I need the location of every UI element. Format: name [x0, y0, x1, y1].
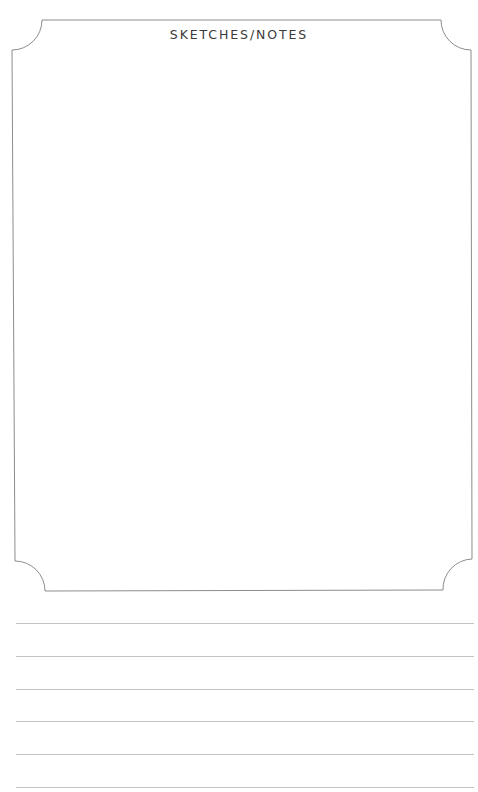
sketch-frame-border	[12, 20, 472, 591]
ruled-line	[16, 623, 474, 624]
ruled-line	[16, 787, 474, 788]
ruled-line	[16, 754, 474, 755]
page-title: SKETCHES/NOTES	[0, 27, 478, 42]
ruled-line	[16, 689, 474, 690]
ruled-line	[16, 656, 474, 657]
ruled-line	[16, 721, 474, 722]
sketch-frame	[0, 0, 478, 600]
